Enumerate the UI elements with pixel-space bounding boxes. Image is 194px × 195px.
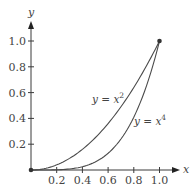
x-tick-label: 0.6: [99, 174, 117, 187]
x-axis-label: x: [183, 163, 190, 176]
x-tick-label: 1.0: [151, 174, 169, 187]
y-tick-label: 1.0: [9, 35, 27, 48]
y-tick-label: 0.8: [9, 61, 27, 74]
y-axis-label: y: [27, 6, 35, 19]
y-tick-label: 0.2: [9, 138, 27, 151]
x-tick-label: 0.4: [74, 174, 92, 187]
curve-x2: [31, 41, 160, 170]
x-tick-label: 0.8: [125, 174, 143, 187]
y-axis: y 0.20.40.60.81.0: [9, 6, 36, 172]
curve-label-x2: y = x2: [91, 91, 124, 105]
y-tick-label: 0.6: [9, 87, 27, 100]
y-axis-arrow-icon: [28, 21, 34, 29]
data-point-dot: [157, 39, 162, 44]
chart: y 0.20.40.60.81.0 x 0.20.40.60.81.0 y = …: [0, 0, 194, 195]
plot-area: [31, 41, 160, 170]
data-point-dot: [29, 168, 34, 173]
curve-x4: [31, 41, 160, 170]
curve-label-x4: y = x4: [133, 113, 166, 127]
x-axis-arrow-icon: [172, 167, 180, 173]
x-tick-label: 0.2: [48, 174, 66, 187]
y-tick-label: 0.4: [9, 112, 27, 125]
